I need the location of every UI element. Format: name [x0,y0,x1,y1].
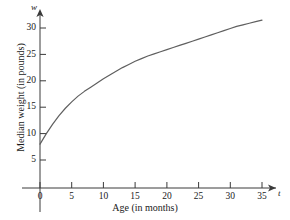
x-tick-label-10: 10 [89,192,117,202]
x-tick-label-5: 5 [58,192,86,202]
x-tick-label-35: 35 [248,192,276,202]
y-axis-title: Median weight (in pounds) [15,18,26,178]
x-tick-label-25: 25 [185,192,213,202]
chart-container: w t 30 25 20 15 10 5 0 5 10 15 20 25 30 … [0,0,290,220]
x-tick-label-15: 15 [121,192,149,202]
x-tick-label-20: 20 [153,192,181,202]
growth-curve-line [40,20,262,144]
x-tick-label-0: 0 [26,192,54,202]
x-axis-ticks [40,182,262,188]
x-axis-title: Age (in months) [0,202,290,213]
x-axis-variable-label: t [278,188,281,198]
chart-plot-area [0,0,290,220]
y-axis-variable-label: w [31,2,37,12]
x-tick-label-30: 30 [216,192,244,202]
